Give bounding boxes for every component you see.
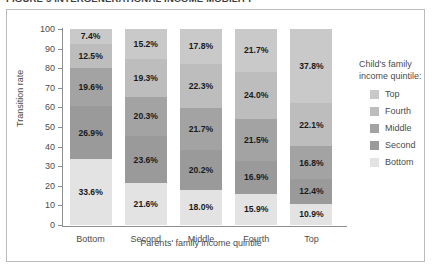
bar-segment-label: 26.9% xyxy=(70,128,112,138)
stacked-bar-column[interactable]: 21.7%24.0%21.5%16.9%15.9% xyxy=(235,29,277,225)
bar-segment[interactable]: 24.0% xyxy=(235,72,277,119)
x-axis-title: Parents' family income quintile xyxy=(63,238,339,248)
y-axis-tick-label: 50 xyxy=(45,122,55,132)
legend-item[interactable]: Fourth xyxy=(359,106,433,116)
legend-item[interactable]: Middle xyxy=(359,123,433,133)
legend-swatch-icon xyxy=(370,158,379,167)
bar-segment-label: 7.4% xyxy=(70,31,112,41)
bar-segment[interactable]: 21.7% xyxy=(235,29,277,72)
y-axis-title: Transition rate xyxy=(15,70,25,127)
bar-segment[interactable]: 21.7% xyxy=(180,108,222,151)
bar-segment[interactable]: 15.9% xyxy=(235,194,277,225)
bar-segment-label: 21.7% xyxy=(235,45,277,55)
bar-segment-label: 15.2% xyxy=(125,39,167,49)
y-axis-tick-label: 100 xyxy=(40,24,55,34)
stacked-bar-column[interactable]: 37.8%22.1%16.8%12.4%10.9% xyxy=(290,29,332,225)
bar-segment-label: 37.8% xyxy=(290,61,332,71)
y-axis-tick-label: 20 xyxy=(45,181,55,191)
bar-segment[interactable]: 16.9% xyxy=(235,161,277,194)
bar-segment[interactable]: 19.6% xyxy=(70,68,112,106)
bar-segment[interactable]: 12.4% xyxy=(290,179,332,203)
bar-segment-label: 19.3% xyxy=(125,73,167,83)
bar-segment[interactable]: 20.2% xyxy=(180,150,222,190)
legend-swatch-icon xyxy=(370,107,379,116)
plot-area: 01020304050607080901007.4%12.5%19.6%26.9… xyxy=(63,29,339,225)
legend-item[interactable]: Top xyxy=(359,89,433,99)
legend-item-label: Second xyxy=(385,140,416,150)
figure-title: FIGURE 5 INTERGENERATIONAL INCOME MOBILI… xyxy=(6,0,253,4)
bar-segment-label: 21.5% xyxy=(235,135,277,145)
stacked-bar-column[interactable]: 7.4%12.5%19.6%26.9%33.6% xyxy=(70,29,112,225)
bar-segment-label: 19.6% xyxy=(70,82,112,92)
legend-swatch-icon xyxy=(370,90,379,99)
y-axis-tick-mark xyxy=(58,147,63,148)
bar-segment-label: 10.9% xyxy=(290,209,332,219)
bar-segment-label: 20.3% xyxy=(125,111,167,121)
chart-legend: Child's family income quintile: TopFourt… xyxy=(359,58,433,167)
bar-segment[interactable]: 33.6% xyxy=(70,159,112,225)
legend-item-label: Top xyxy=(385,89,400,99)
bar-segment-label: 22.3% xyxy=(180,81,222,91)
y-axis-tick-label: 10 xyxy=(45,200,55,210)
bar-segment[interactable]: 18.0% xyxy=(180,190,222,225)
y-axis-tick-mark xyxy=(58,29,63,30)
y-axis-tick-label: 90 xyxy=(45,44,55,54)
bar-segment[interactable]: 26.9% xyxy=(70,106,112,159)
bar-segment[interactable]: 21.6% xyxy=(125,183,167,225)
bar-segment-label: 21.6% xyxy=(125,199,167,209)
y-axis-tick-mark xyxy=(58,225,63,226)
bar-segment[interactable]: 19.3% xyxy=(125,59,167,97)
bar-segment[interactable]: 22.1% xyxy=(290,103,332,146)
bar-segment-label: 23.6% xyxy=(125,155,167,165)
legend-item-label: Fourth xyxy=(385,106,411,116)
bar-segment-label: 16.8% xyxy=(290,158,332,168)
legend-item-label: Middle xyxy=(385,123,412,133)
bar-segment-label: 24.0% xyxy=(235,90,277,100)
y-axis-tick-mark xyxy=(58,107,63,108)
bar-segment[interactable]: 22.3% xyxy=(180,64,222,108)
bar-segment-label: 22.1% xyxy=(290,120,332,130)
bar-segment-label: 17.8% xyxy=(180,41,222,51)
bar-segment[interactable]: 10.9% xyxy=(290,204,332,225)
bar-segment-label: 16.9% xyxy=(235,172,277,182)
stacked-bar-column[interactable]: 15.2%19.3%20.3%23.6%21.6% xyxy=(125,29,167,225)
legend-title: Child's family income quintile: xyxy=(359,58,433,82)
y-axis-tick-mark xyxy=(58,68,63,69)
figure-frame: Transition rate 01020304050607080901007.… xyxy=(6,9,425,262)
bar-segment[interactable]: 17.8% xyxy=(180,29,222,64)
legend-item-label: Bottom xyxy=(385,157,414,167)
x-axis-line xyxy=(62,226,347,227)
y-axis-tick-label: 80 xyxy=(45,63,55,73)
legend-swatch-icon xyxy=(370,124,379,133)
bar-segment-label: 12.5% xyxy=(70,51,112,61)
bar-segment-label: 12.4% xyxy=(290,186,332,196)
bar-segment[interactable]: 37.8% xyxy=(290,29,332,103)
bar-segment[interactable]: 21.5% xyxy=(235,119,277,161)
y-axis-tick-label: 0 xyxy=(50,220,55,230)
bar-segment-label: 15.9% xyxy=(235,204,277,214)
stacked-bar-column[interactable]: 17.8%22.3%21.7%20.2%18.0% xyxy=(180,29,222,225)
y-axis-tick-mark xyxy=(58,49,63,50)
legend-item[interactable]: Second xyxy=(359,140,433,150)
bar-segment[interactable]: 16.8% xyxy=(290,146,332,179)
legend-swatch-icon xyxy=(370,141,379,150)
bar-segment[interactable]: 23.6% xyxy=(125,136,167,182)
legend-item[interactable]: Bottom xyxy=(359,157,433,167)
bar-segment-label: 21.7% xyxy=(180,124,222,134)
y-axis-tick-mark xyxy=(58,127,63,128)
y-axis-tick-label: 30 xyxy=(45,161,55,171)
bar-segment[interactable]: 20.3% xyxy=(125,97,167,137)
bar-segment-label: 18.0% xyxy=(180,202,222,212)
y-axis-tick-mark xyxy=(58,166,63,167)
bar-segment-label: 33.6% xyxy=(70,187,112,197)
y-axis-tick-label: 40 xyxy=(45,142,55,152)
y-axis-tick-label: 70 xyxy=(45,83,55,93)
y-axis-tick-mark xyxy=(58,186,63,187)
bar-segment-label: 20.2% xyxy=(180,165,222,175)
y-axis-tick-mark xyxy=(58,205,63,206)
bar-segment[interactable]: 7.4% xyxy=(70,29,112,44)
bar-segment[interactable]: 12.5% xyxy=(70,44,112,69)
legend-items: TopFourthMiddleSecondBottom xyxy=(359,89,433,167)
bar-segment[interactable]: 15.2% xyxy=(125,29,167,59)
y-axis-tick-label: 60 xyxy=(45,102,55,112)
